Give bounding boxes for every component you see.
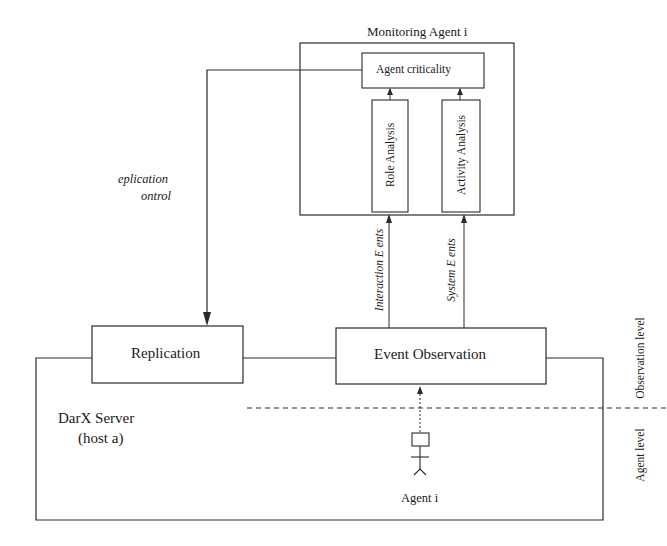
replication-control-label-line1: eplication: [118, 172, 168, 187]
diagram-canvas: [0, 0, 667, 546]
agent-observation-arrowhead-icon: [417, 386, 423, 394]
agent-level-label: Agent level: [634, 415, 646, 495]
monitoring-agent-title: Monitoring Agent i: [367, 24, 467, 40]
role-arrowhead-icon: [387, 88, 393, 95]
agent-label: Agent i: [401, 491, 438, 506]
event-observation-label: Event Observation: [374, 346, 486, 363]
observation-level-label: Observation level: [634, 303, 646, 413]
replication-control-connector: [207, 70, 362, 318]
replication-control-label-line2: ontrol: [141, 189, 171, 204]
agent-icon: [411, 433, 429, 475]
replication-control-arrowhead-icon: [203, 312, 211, 326]
activity-arrowhead-icon: [457, 88, 463, 95]
replication-label: Replication: [131, 345, 200, 362]
activity-analysis-label: Activity Analysis: [455, 105, 467, 205]
system-events-label: System E ents: [445, 225, 457, 315]
agent-criticality-label: Agent criticality: [376, 63, 451, 75]
interaction-events-label: Interaction E ents: [373, 210, 385, 330]
role-analysis-label: Role Analysis: [384, 115, 396, 195]
server-name-label: DarX Server: [58, 410, 134, 427]
server-host-label: (host a): [78, 430, 123, 447]
